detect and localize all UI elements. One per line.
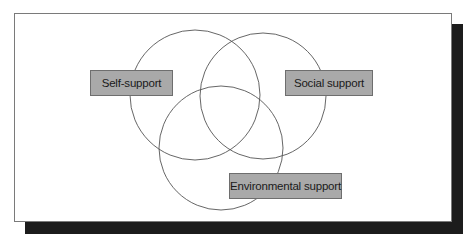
environmental-support-label: Environmental support: [229, 173, 342, 199]
social-support-circle: [200, 33, 326, 159]
social-support-label: Social support: [285, 70, 373, 96]
venn-diagram: [0, 0, 476, 245]
self-support-label: Self-support: [90, 70, 173, 96]
